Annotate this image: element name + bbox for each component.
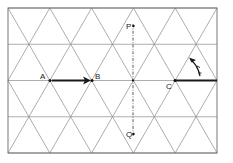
label-a: A bbox=[40, 72, 46, 81]
label-p: P bbox=[126, 22, 131, 31]
grid-diagonal-line bbox=[113, 81, 134, 117]
rotation-arrowhead-icon bbox=[189, 58, 196, 63]
label-q: Q bbox=[126, 130, 132, 139]
grid-diagonal-line bbox=[8, 44, 29, 80]
grid-diagonal-line bbox=[29, 117, 50, 153]
grid-diagonal-line bbox=[133, 117, 154, 153]
grid-diagonal-line bbox=[154, 117, 175, 153]
grid-diagonal-line bbox=[8, 8, 29, 44]
point-q bbox=[132, 133, 134, 135]
grid-diagonal-line bbox=[92, 81, 113, 117]
point-center bbox=[132, 79, 134, 81]
grid-diagonal-line bbox=[154, 8, 175, 44]
grid-diagonal-line bbox=[196, 81, 217, 117]
point-c bbox=[174, 79, 177, 82]
point-p bbox=[132, 25, 134, 27]
grid-diagonal-line bbox=[29, 81, 50, 117]
grid-diagonal-line bbox=[50, 81, 71, 117]
grid-diagonal-line bbox=[8, 81, 29, 117]
grid-diagonal-line bbox=[113, 44, 134, 80]
grid-diagonal-line bbox=[71, 44, 92, 80]
grid-diagonal-line bbox=[196, 8, 217, 44]
grid-diagonal-line bbox=[133, 8, 154, 44]
triangular-lattice-diagram: A B C P Q bbox=[0, 0, 233, 163]
grid-diagonal-line bbox=[50, 8, 71, 44]
grid-diagonal-line bbox=[71, 8, 92, 44]
grid-diagonal-line bbox=[92, 8, 113, 44]
grid-diagonal-line bbox=[133, 81, 154, 117]
grid-diagonal-line bbox=[71, 81, 92, 117]
grid-diagonal-line bbox=[133, 44, 154, 80]
grid-diagonal-line bbox=[196, 117, 217, 153]
grid-diagonal-line bbox=[175, 81, 196, 117]
grid-diagonal-line bbox=[92, 117, 113, 153]
point-a bbox=[49, 79, 52, 82]
label-b: B bbox=[95, 72, 100, 81]
grid-diagonal-line bbox=[71, 117, 92, 153]
label-c: C bbox=[166, 82, 172, 91]
grid-diagonal-line bbox=[175, 117, 196, 153]
grid-diagonal-line bbox=[154, 44, 175, 80]
grid-diagonal-line bbox=[50, 44, 71, 80]
grid-diagonal-line bbox=[175, 8, 196, 44]
grid-diagonal-line bbox=[50, 117, 71, 153]
rotation-arc bbox=[191, 60, 200, 76]
point-b bbox=[91, 79, 94, 82]
grid-diagonal-line bbox=[29, 8, 50, 44]
grid-diagonal-line bbox=[8, 117, 29, 153]
grid-diagonal-line bbox=[154, 81, 175, 117]
